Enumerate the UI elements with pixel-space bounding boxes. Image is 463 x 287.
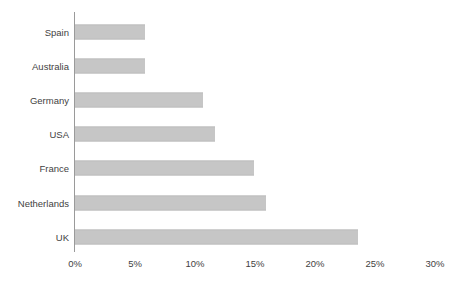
bar-fill [75,58,145,73]
bar-category-label: France [39,163,69,174]
bar-category-label: UK [56,231,69,242]
bar-row: Germany [0,82,463,117]
x-axis-tick-label: 5% [128,258,142,270]
bar-row: Spain [0,14,463,49]
bar-row: UK [0,219,463,254]
x-axis-tick-label: 20% [305,258,324,270]
bar-fill [75,195,266,210]
bar-row: Netherlands [0,185,463,220]
bar-fill [75,161,254,176]
bar-category-label: Netherlands [18,197,69,208]
bar-track [75,161,254,176]
bar-track [75,195,266,210]
x-axis-tick-label: 0% [68,258,82,270]
bar-track [75,229,358,244]
bar-category-label: Australia [32,60,69,71]
bar-track [75,58,145,73]
plot-area: SpainAustraliaGermanyUSAFranceNetherland… [0,0,463,287]
bar-row: France [0,151,463,186]
bar-category-label: USA [49,129,69,140]
bar-row: USA [0,117,463,152]
x-axis-tick-label: 25% [365,258,384,270]
bar-fill [75,127,215,142]
bar-fill [75,24,145,39]
bar-row: Australia [0,48,463,83]
bar-track [75,127,215,142]
bar-fill [75,229,358,244]
bar-track [75,24,145,39]
bar-category-label: Spain [45,26,69,37]
bar-fill [75,92,203,107]
bar-track [75,92,203,107]
x-axis-tick-label: 15% [245,258,264,270]
x-axis-tick-label: 10% [185,258,204,270]
bar-category-label: Germany [30,94,69,105]
horizontal-bar-chart: SpainAustraliaGermanyUSAFranceNetherland… [0,0,463,287]
x-axis-tick-label: 30% [425,258,444,270]
x-axis-tick-labels: 0%5%10%15%20%25%30% [0,258,463,274]
